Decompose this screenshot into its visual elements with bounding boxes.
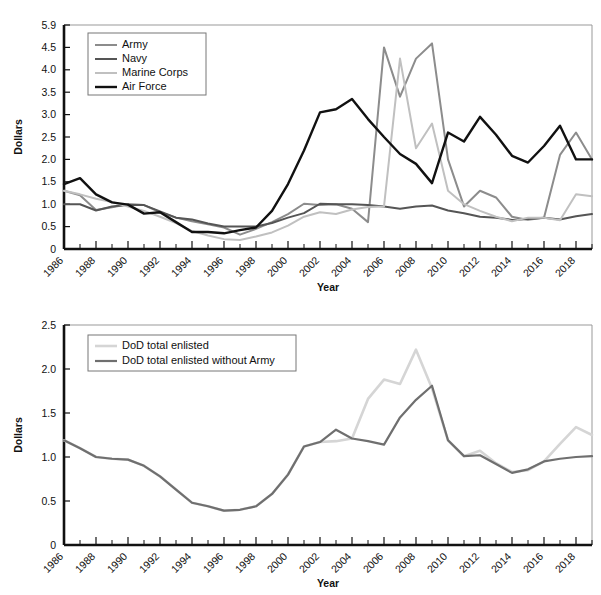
y-tick-label: 2.0 [41, 363, 56, 375]
x-tick-label: 2000 [264, 550, 289, 575]
x-tick-label: 2018 [552, 550, 577, 575]
x-tick-label: 1994 [168, 254, 193, 279]
legend-label: Air Force [122, 80, 167, 92]
x-tick-label: 1998 [232, 550, 257, 575]
x-tick-label: 2002 [296, 550, 321, 575]
y-tick-label: 1.0 [41, 451, 56, 463]
x-tick-label: 2018 [552, 254, 577, 279]
series-line-dod-total-enlisted-without-army [64, 386, 592, 511]
y-tick-label: 4.5 [41, 41, 56, 53]
y-tick-label: 2.0 [41, 153, 56, 165]
y-tick-label: 0.5 [41, 220, 56, 232]
y-axis-title: Dollars [12, 417, 24, 453]
legend-label: DoD total enlisted [122, 339, 209, 351]
x-tick-label: 2004 [328, 550, 353, 575]
bottom-chart-svg: 00.51.01.52.02.5198619881990199219941996… [0, 310, 601, 595]
x-tick-label: 2002 [296, 254, 321, 279]
x-tick-label: 1986 [40, 254, 65, 279]
x-tick-label: 2010 [424, 550, 449, 575]
x-tick-label: 1988 [72, 254, 97, 279]
y-tick-label: 2.5 [41, 319, 56, 331]
x-tick-label: 1986 [40, 550, 65, 575]
x-tick-label: 2012 [456, 550, 481, 575]
x-tick-label: 1992 [136, 254, 161, 279]
legend: ArmyNavyMarine CorpsAir Force [88, 33, 206, 95]
x-tick-label: 2006 [360, 550, 385, 575]
x-tick-label: 2016 [520, 550, 545, 575]
legend-label: Navy [122, 52, 148, 64]
x-tick-label: 2016 [520, 254, 545, 279]
legend: DoD total enlistedDoD total enlisted wit… [88, 335, 296, 371]
x-tick-label: 2008 [392, 254, 417, 279]
y-tick-label: 4.0 [41, 63, 56, 75]
y-tick-label: 0 [50, 243, 56, 255]
y-tick-label: 1.5 [41, 407, 56, 419]
chart-panel-bottom: 00.51.01.52.02.5198619881990199219941996… [0, 310, 601, 595]
x-tick-label: 1988 [72, 550, 97, 575]
y-tick-label: 3.5 [41, 86, 56, 98]
x-tick-label: 2012 [456, 254, 481, 279]
top-chart-svg: 00.51.01.52.02.53.03.54.04.55.9198619881… [0, 0, 601, 300]
y-tick-label: 2.5 [41, 131, 56, 143]
x-tick-label: 1990 [104, 550, 129, 575]
x-tick-label: 2006 [360, 254, 385, 279]
x-tick-label: 1990 [104, 254, 129, 279]
x-axis-title: Year [317, 577, 339, 589]
x-tick-label: 2014 [488, 254, 513, 279]
x-axis-title: Year [317, 281, 339, 293]
y-tick-label: 3.0 [41, 108, 56, 120]
x-tick-label: 2008 [392, 550, 417, 575]
legend-label: Marine Corps [122, 66, 189, 78]
series-line-navy [64, 204, 592, 227]
x-tick-label: 1992 [136, 550, 161, 575]
y-tick-label: 0.5 [41, 495, 56, 507]
x-tick-label: 1994 [168, 550, 193, 575]
x-tick-label: 1996 [200, 254, 225, 279]
figure-container: 00.51.01.52.02.53.03.54.04.55.9198619881… [0, 0, 601, 595]
legend-label: DoD total enlisted without Army [122, 354, 275, 366]
y-axis-title: Dollars [12, 119, 24, 155]
x-tick-label: 2000 [264, 254, 289, 279]
series-line-dod-total-enlisted [64, 350, 592, 511]
y-tick-label: 1.0 [41, 198, 56, 210]
x-tick-label: 2014 [488, 550, 513, 575]
y-tick-label: 5.9 [41, 19, 56, 31]
y-tick-label: 1.5 [41, 175, 56, 187]
chart-panel-top: 00.51.01.52.02.53.03.54.04.55.9198619881… [0, 0, 601, 300]
x-tick-label: 2010 [424, 254, 449, 279]
y-tick-label: 0 [50, 539, 56, 551]
x-tick-label: 1996 [200, 550, 225, 575]
x-tick-label: 2004 [328, 254, 353, 279]
x-tick-label: 1998 [232, 254, 257, 279]
legend-label: Army [122, 38, 148, 50]
